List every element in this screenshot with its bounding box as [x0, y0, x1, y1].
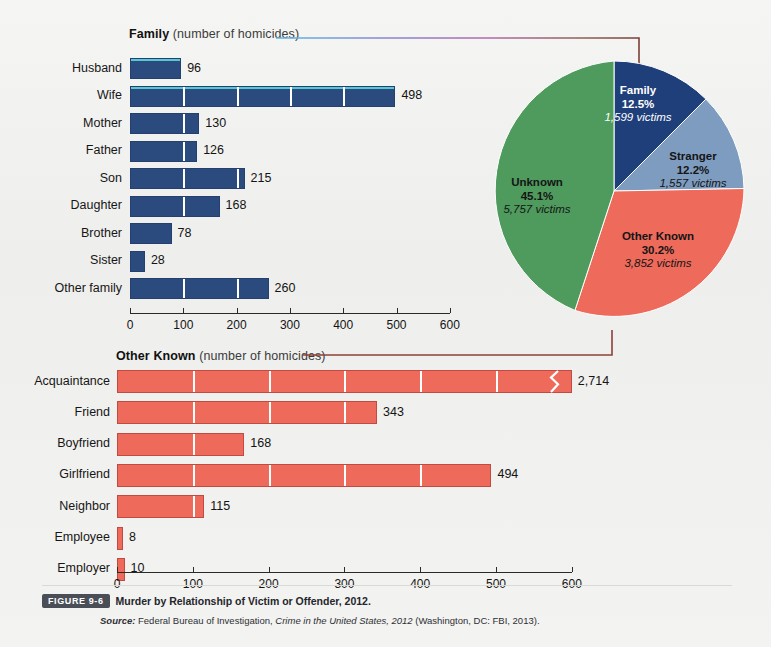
- category-label-father: Father: [0, 143, 122, 157]
- bar-gridline: [183, 279, 185, 298]
- bar-gridline: [269, 402, 271, 423]
- bar-sister: [130, 251, 145, 272]
- bar-employee: [117, 527, 123, 550]
- x-axis-tick: [572, 567, 573, 572]
- category-label-daughter: Daughter: [0, 198, 122, 212]
- pie-label-unknown-victims: 5,757 victims: [477, 203, 597, 217]
- x-axis-tick-label: 500: [476, 577, 516, 591]
- x-axis-line: [117, 572, 572, 573]
- bar-value-mother: 130: [205, 116, 226, 130]
- bar-wife: [130, 86, 395, 107]
- bar-friend: [117, 401, 377, 424]
- family-chart-header: Family (number of homicides): [129, 27, 299, 41]
- bar-gridline: [290, 87, 292, 106]
- x-axis-tick-label: 100: [173, 577, 213, 591]
- x-axis-tick: [420, 567, 421, 572]
- pie-label-stranger-victims: 1,557 victims: [633, 177, 753, 191]
- category-label-husband: Husband: [0, 61, 122, 75]
- source-label: Source:: [100, 615, 135, 626]
- bar-son: [130, 168, 245, 189]
- bar-gridline: [193, 402, 195, 423]
- bar-mother: [130, 113, 199, 134]
- x-axis-tick: [496, 567, 497, 572]
- bar-gridline: [183, 87, 185, 106]
- bar-neighbor: [117, 495, 204, 518]
- bar-gridline: [496, 371, 498, 392]
- x-axis-tick-label: 200: [217, 318, 257, 332]
- pie-label-family: Family 12.5% 1,599 victims: [578, 84, 698, 125]
- category-label-wife: Wife: [0, 88, 122, 102]
- bar-value-neighbor: 115: [210, 499, 230, 513]
- bar-value-father: 126: [203, 143, 224, 157]
- bar-gridline: [237, 87, 239, 106]
- x-axis-tick: [117, 567, 118, 572]
- pie-label-stranger: Stranger 12.2% 1,557 victims: [633, 150, 753, 191]
- figure-panel: Family (number of homicides) Husband96Wi…: [0, 0, 771, 647]
- pie-label-stranger-title: Stranger: [633, 150, 753, 164]
- category-label-son: Son: [0, 171, 122, 185]
- x-axis-tick-label: 400: [400, 577, 440, 591]
- category-label-mother: Mother: [0, 116, 122, 130]
- category-label-brother: Brother: [0, 226, 122, 240]
- x-axis-tick-label: 100: [163, 318, 203, 332]
- pie-label-other-known-title: Other Known: [593, 230, 723, 244]
- pie-label-family-victims: 1,599 victims: [578, 111, 698, 125]
- bar-gridline: [344, 465, 346, 486]
- bar-gridline: [343, 87, 345, 106]
- x-axis-tick-label: 0: [97, 577, 137, 591]
- pie-label-family-title: Family: [578, 84, 698, 98]
- family-chart-title: Family: [129, 27, 169, 41]
- figure-title: Murder by Relationship of Victim or Offe…: [116, 594, 371, 607]
- bar-value-wife: 498: [401, 88, 422, 102]
- caption-divider: [42, 585, 732, 586]
- bar-gridline: [269, 371, 271, 392]
- bar-gridline: [183, 114, 185, 133]
- axis-break-zigzag: [547, 370, 563, 393]
- bar-gridline: [193, 434, 195, 455]
- bar-value-acquaintance: 2,714: [578, 374, 609, 388]
- bar-gridline: [237, 279, 239, 298]
- bar-brother: [130, 223, 172, 244]
- bar-gridline: [183, 197, 185, 216]
- x-axis-tick-label: 200: [249, 577, 289, 591]
- bar-value-son: 215: [251, 171, 272, 185]
- bar-value-friend: 343: [383, 405, 404, 419]
- other-known-chart-title: Other Known: [116, 349, 196, 363]
- bar-value-other-family: 260: [275, 281, 296, 295]
- x-axis-tick-label: 300: [324, 577, 364, 591]
- pie-label-other-known-victims: 3,852 victims: [593, 257, 723, 271]
- x-axis-tick: [343, 308, 344, 313]
- pie-label-unknown-percent: 45.1%: [477, 190, 597, 204]
- figure-caption: FIGURE 9-6Murder by Relationship of Vict…: [42, 594, 732, 626]
- category-label-employer: Employer: [0, 561, 110, 575]
- bar-value-boyfriend: 168: [250, 436, 271, 450]
- x-axis-tick: [269, 567, 270, 572]
- x-axis-tick: [193, 567, 194, 572]
- pie-label-other-known-percent: 30.2%: [593, 244, 723, 258]
- bar-value-sister: 28: [151, 253, 165, 267]
- bar-girlfriend: [117, 464, 491, 487]
- x-axis-tick: [290, 308, 291, 313]
- bar-gridline: [193, 496, 195, 517]
- category-label-employee: Employee: [0, 530, 110, 544]
- bar-gridline: [193, 465, 195, 486]
- pie-label-family-percent: 12.5%: [578, 98, 698, 112]
- x-axis-tick: [397, 308, 398, 313]
- other-known-chart-header: Other Known (number of homicides): [116, 349, 326, 363]
- pie-label-unknown: Unknown 45.1% 5,757 victims: [477, 176, 597, 217]
- bar-gridline: [344, 402, 346, 423]
- category-label-friend: Friend: [0, 405, 110, 419]
- source-publication: Crime in the United States, 2012: [275, 615, 412, 626]
- source-text-b: (Washington, DC: FBI, 2013).: [413, 615, 540, 626]
- bar-value-employee: 8: [129, 530, 136, 544]
- x-axis-tick: [450, 308, 451, 313]
- category-label-sister: Sister: [0, 253, 122, 267]
- source-text-a: Federal Bureau of Investigation,: [135, 615, 275, 626]
- bar-gridline: [183, 142, 185, 161]
- x-axis-tick: [237, 308, 238, 313]
- bar-value-girlfriend: 494: [497, 467, 518, 481]
- bar-value-brother: 78: [178, 226, 192, 240]
- bar-value-daughter: 168: [226, 198, 247, 212]
- bar-value-employer: 10: [131, 561, 145, 575]
- other-known-connector-line: [302, 330, 702, 362]
